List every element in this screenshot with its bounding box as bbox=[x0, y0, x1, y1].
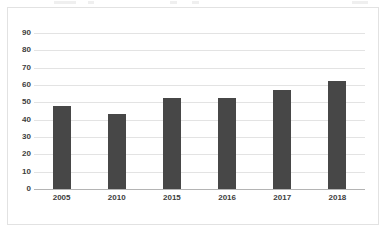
y-axis-tick-label: 70 bbox=[9, 64, 31, 72]
cropped-toolbar-strip bbox=[0, 0, 387, 6]
x-axis-tick-label: 2016 bbox=[218, 191, 236, 205]
x-axis-tick-label: 2010 bbox=[108, 191, 126, 205]
bar-slot bbox=[144, 33, 199, 189]
bar-slot bbox=[255, 33, 310, 189]
x-axis: 200520102015201620172018 bbox=[34, 191, 365, 207]
bar-slot bbox=[310, 33, 365, 189]
y-axis-tick-label: 10 bbox=[9, 168, 31, 176]
y-axis-tick-label: 20 bbox=[9, 150, 31, 158]
x-axis-tick-label: 2015 bbox=[163, 191, 181, 205]
bar[interactable] bbox=[108, 114, 126, 189]
x-axis-tick-label: 2018 bbox=[329, 191, 347, 205]
bar[interactable] bbox=[163, 98, 181, 189]
y-axis-tick-label: 0 bbox=[9, 185, 31, 193]
y-axis-tick-label: 30 bbox=[9, 133, 31, 141]
bar-slot bbox=[34, 33, 89, 189]
bar[interactable] bbox=[273, 90, 291, 189]
x-axis-tick-label: 2017 bbox=[273, 191, 291, 205]
bar-chart: 9080706050403020100 20052010201520162017… bbox=[7, 7, 379, 225]
bar[interactable] bbox=[218, 98, 236, 189]
bars-layer bbox=[34, 33, 365, 189]
y-axis: 9080706050403020100 bbox=[8, 33, 31, 189]
y-axis-tick-label: 60 bbox=[9, 81, 31, 89]
bar-slot bbox=[200, 33, 255, 189]
x-axis-tick-label: 2005 bbox=[53, 191, 71, 205]
bar-slot bbox=[89, 33, 144, 189]
y-axis-tick-label: 40 bbox=[9, 116, 31, 124]
y-axis-tick-label: 80 bbox=[9, 46, 31, 54]
y-axis-tick-label: 90 bbox=[9, 29, 31, 37]
y-axis-tick-label: 50 bbox=[9, 98, 31, 106]
axis-baseline bbox=[34, 189, 365, 190]
bar[interactable] bbox=[328, 81, 346, 189]
bar[interactable] bbox=[53, 106, 71, 189]
